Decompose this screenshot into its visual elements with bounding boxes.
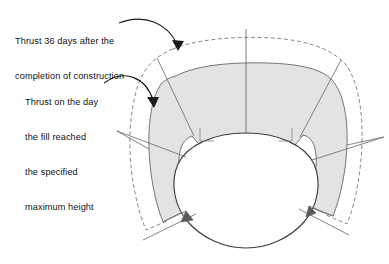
tunnel-lining-ellipse [174, 133, 318, 248]
thrust-max-fill-label-line4: maximum height [25, 202, 98, 214]
springline-tick-right [347, 137, 384, 145]
thrust-max-fill-label-line1: Thrust on the day [25, 97, 98, 109]
leader-arrow-36-days-curve [119, 19, 177, 44]
thrust-max-fill-label-line3: the specified [25, 167, 98, 179]
thrust-max-fill-height-label: Thrust on the day the fill reached the s… [25, 74, 98, 236]
leader-arrow-thrust-36-days [119, 19, 184, 51]
tunnel-lining-group [174, 133, 318, 248]
thrust-max-fill-label-line2: the fill reached [25, 132, 98, 144]
diagram-canvas: Thrust 36 days after the completion of c… [0, 0, 389, 264]
thrust-36-days-label-line1: Thrust 36 days after the [15, 36, 124, 48]
springline-tick-left [117, 131, 149, 149]
